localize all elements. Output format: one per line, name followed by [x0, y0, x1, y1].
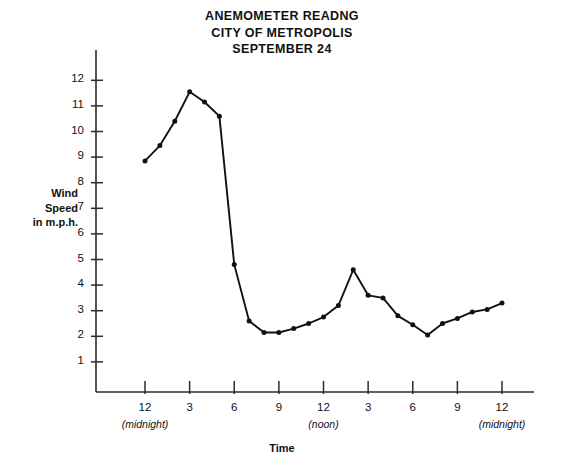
- data-point-marker: [455, 316, 460, 321]
- data-point-marker: [306, 321, 311, 326]
- data-point-marker: [157, 143, 162, 148]
- chart-title-block: ANEMOMETER READNG CITY OF METROPOLIS SEP…: [0, 8, 564, 58]
- data-point-marker: [500, 301, 505, 306]
- data-line-wind-speed: [145, 92, 502, 335]
- data-point-marker: [410, 322, 415, 327]
- y-axis-tick-label: 7: [58, 200, 84, 212]
- y-axis-title-line-1: Wind: [16, 186, 78, 201]
- y-axis-tick-label: 11: [58, 98, 84, 110]
- data-point-marker: [470, 309, 475, 314]
- y-axis-tick-label: 6: [58, 226, 84, 238]
- x-axis-tick-label: 9: [437, 401, 477, 413]
- x-axis-tick-sublabel: (midnight): [457, 418, 547, 430]
- x-axis-tick-label: 12: [125, 401, 165, 413]
- chart-subtitle-date: SEPTEMBER 24: [0, 41, 564, 58]
- data-point-marker: [440, 321, 445, 326]
- data-point-marker: [366, 293, 371, 298]
- y-axis-tick-label: 8: [58, 175, 84, 187]
- data-point-marker: [262, 330, 267, 335]
- data-point-marker: [217, 114, 222, 119]
- y-axis-tick-label: 1: [58, 354, 84, 366]
- y-axis-tick-label: 9: [58, 149, 84, 161]
- data-point-marker: [291, 326, 296, 331]
- x-axis-tick-label: 12: [482, 401, 522, 413]
- x-axis-tick-sublabel: (noon): [279, 418, 369, 430]
- x-axis-tick-label: 6: [393, 401, 433, 413]
- chart-subtitle: CITY OF METROPOLIS: [0, 25, 564, 42]
- x-axis-tick-label: 12: [304, 401, 344, 413]
- x-axis-tick-label: 3: [170, 401, 210, 413]
- y-axis-tick-label: 3: [58, 303, 84, 315]
- y-axis-tick-label: 5: [58, 252, 84, 264]
- x-axis-tick-label: 9: [259, 401, 299, 413]
- data-point-marker: [336, 303, 341, 308]
- data-point-marker: [321, 315, 326, 320]
- chart-title: ANEMOMETER READNG: [0, 8, 564, 25]
- data-point-marker: [351, 267, 356, 272]
- anemometer-line-chart: ANEMOMETER READNG CITY OF METROPOLIS SEP…: [0, 0, 564, 467]
- y-axis-tick-label: 12: [58, 72, 84, 84]
- data-point-marker: [425, 333, 430, 338]
- data-point-marker: [232, 262, 237, 267]
- data-point-marker: [276, 330, 281, 335]
- data-point-marker: [143, 158, 148, 163]
- y-axis-tick-label: 10: [58, 124, 84, 136]
- data-point-marker: [395, 313, 400, 318]
- plot-area: [0, 0, 564, 467]
- x-axis-tick-label: 3: [348, 401, 388, 413]
- data-point-marker: [247, 318, 252, 323]
- data-point-marker: [172, 119, 177, 124]
- data-point-marker: [202, 100, 207, 105]
- data-point-marker: [187, 89, 192, 94]
- x-axis-title: Time: [0, 442, 564, 454]
- data-point-marker: [381, 295, 386, 300]
- x-axis-tick-sublabel: (midnight): [100, 418, 190, 430]
- data-point-marker: [485, 307, 490, 312]
- y-axis-tick-label: 2: [58, 328, 84, 340]
- y-axis-tick-label: 4: [58, 277, 84, 289]
- x-axis-tick-label: 6: [214, 401, 254, 413]
